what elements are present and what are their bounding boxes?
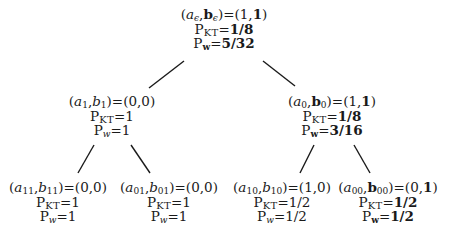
pw-value: 5/32 — [222, 35, 255, 51]
node-pkt: PKT=1 — [120, 195, 218, 210]
node-pair: (a0,b0)=(1,1) — [288, 94, 376, 109]
tree-node-n01: (a01,b01)=(0,0) PKT=1 Pw=1 — [120, 180, 218, 224]
tree-node-root: (aϵ,bϵ)=(1,1) PKT=1/8 Pw=5/32 — [181, 7, 268, 51]
node-pw: Pw=5/32 — [181, 36, 268, 51]
paren: ) — [102, 179, 107, 195]
p-label: P — [151, 208, 160, 224]
pw-value: 1/2 — [285, 208, 307, 224]
node-pkt: PKT=1 — [69, 109, 155, 124]
sub: 01 — [133, 186, 144, 196]
value-b: 0 — [141, 93, 150, 109]
node-pair: (a11,b11)=(0,0) — [9, 180, 107, 195]
pw-value: 1 — [122, 122, 131, 138]
p-label: P — [94, 122, 103, 138]
p-label: P — [257, 208, 266, 224]
equals: = — [167, 208, 178, 224]
tree-node-n10: (a10,b10)=(1,0) PKT=1/2 Pw=1/2 — [233, 180, 331, 224]
var-b: b — [262, 179, 271, 195]
equals: = — [318, 122, 329, 138]
var-b: b — [203, 6, 212, 22]
node-pw: Pw=1 — [120, 209, 218, 224]
value-b: 1 — [361, 93, 370, 109]
pw-value: 1/2 — [390, 208, 414, 224]
var-b: b — [311, 93, 320, 109]
node-pkt: PKT=1/2 — [233, 195, 331, 210]
tree-node-n00: (a00,b00)=(0,1) PKT=1/2 Pw=1/2 — [338, 180, 437, 224]
pw-value: 1 — [179, 208, 188, 224]
node-pkt: PKT=1/8 — [181, 22, 268, 37]
p-label: P — [193, 35, 202, 51]
node-pw: Pw=1/2 — [233, 209, 331, 224]
edge-n1-n01 — [131, 145, 150, 173]
node-pair: (aϵ,bϵ)=(1,1) — [181, 7, 268, 22]
node-pair: (a01,b01)=(0,0) — [120, 180, 218, 195]
node-pair: (a10,b10)=(1,0) — [233, 180, 331, 195]
var-b: b — [367, 179, 376, 195]
value-b: 0 — [204, 179, 213, 195]
node-pair: (a00,b00)=(0,1) — [338, 180, 437, 195]
node-pair: (a1,b1)=(0,0) — [69, 94, 155, 109]
edge-n1-n11 — [78, 145, 94, 173]
edge-root-n1 — [149, 61, 184, 88]
value-b: 1 — [253, 6, 262, 22]
sub: w — [202, 42, 210, 52]
tree-node-n1: (a1,b1)=(0,0) PKT=1 Pw=1 — [69, 94, 155, 138]
value-b: 1 — [423, 179, 432, 195]
pw-value: 1 — [68, 208, 77, 224]
sub: 11 — [22, 186, 33, 196]
paren: ) — [213, 179, 218, 195]
p-label: P — [362, 208, 371, 224]
sub: w — [103, 129, 111, 139]
equals: = — [210, 35, 221, 51]
edge-n0-n00 — [354, 145, 370, 173]
value-a: 0 — [191, 179, 200, 195]
equals: = — [379, 208, 390, 224]
paren: ) — [432, 179, 437, 195]
value-b: 0 — [93, 179, 102, 195]
pw-value: 3/16 — [330, 122, 363, 138]
tree-node-n11: (a11,b11)=(0,0) PKT=1 Pw=1 — [9, 180, 107, 224]
paren: ) — [262, 6, 267, 22]
node-pw: Pw=3/16 — [288, 123, 376, 138]
sub: w — [371, 215, 379, 225]
equals: = — [274, 208, 285, 224]
node-pkt: PKT=1/2 — [338, 195, 437, 210]
equals: = — [56, 208, 67, 224]
value-a: 0 — [80, 179, 89, 195]
node-pw: Pw=1 — [9, 209, 107, 224]
equals: = — [110, 122, 121, 138]
edge-root-n0 — [263, 61, 295, 86]
paren: ) — [150, 93, 155, 109]
sub: w — [266, 215, 274, 225]
node-pkt: PKT=1 — [9, 195, 107, 210]
value-b: 0 — [317, 179, 326, 195]
node-pw: Pw=1/2 — [338, 209, 437, 224]
node-pw: Pw=1 — [69, 123, 155, 138]
paren: ) — [371, 93, 376, 109]
p-label: P — [40, 208, 49, 224]
edge-n0-n10 — [300, 145, 314, 173]
node-pkt: PKT=1/8 — [288, 109, 376, 124]
tree-node-n0: (a0,b0)=(1,1) PKT=1/8 Pw=3/16 — [288, 94, 376, 138]
paren: ) — [326, 179, 331, 195]
